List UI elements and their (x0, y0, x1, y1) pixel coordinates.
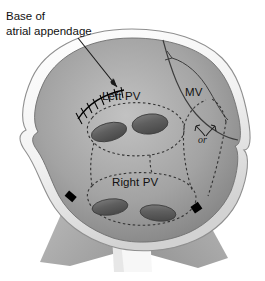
callout-label-line2: atrial appendage (6, 25, 92, 37)
callout-label-line1: Base of (6, 10, 46, 22)
or-connector-label: or (198, 134, 207, 145)
mitral-valve-label: MV (185, 86, 203, 98)
right-pv-label: Right PV (112, 176, 158, 188)
left-pv-label: Left PV (102, 90, 141, 102)
atrium-diagram-svg: Base of atrial appendage Left PV Right P… (0, 0, 265, 281)
figure-canvas: Base of atrial appendage Left PV Right P… (0, 0, 265, 281)
